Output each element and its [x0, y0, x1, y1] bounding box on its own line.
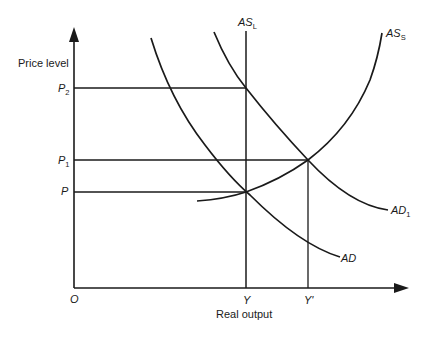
x-axis-arrow-icon — [394, 283, 409, 293]
as-short-run-label: ASS — [385, 27, 406, 42]
diagram: Price level Real output O P2 P1 P Y Y' A… — [0, 0, 441, 339]
y-prime-label: Y' — [304, 294, 314, 306]
p2-label: P2 — [58, 82, 70, 97]
as-short-run-curve — [197, 33, 382, 201]
y-axis-arrow-icon — [69, 27, 79, 42]
as-long-run-label: ASL — [237, 16, 257, 31]
y-label: Y — [243, 294, 251, 306]
x-axis-label: Real output — [216, 308, 272, 320]
reference-lines — [74, 88, 308, 288]
p1-label: P1 — [58, 154, 70, 169]
ad1-label: AD1 — [390, 204, 410, 219]
origin-label: O — [70, 293, 79, 305]
y-axis-label: Price level — [18, 57, 69, 69]
ad1-curve — [214, 32, 388, 210]
p-label: P — [61, 185, 69, 197]
ad-label: AD — [340, 252, 356, 264]
